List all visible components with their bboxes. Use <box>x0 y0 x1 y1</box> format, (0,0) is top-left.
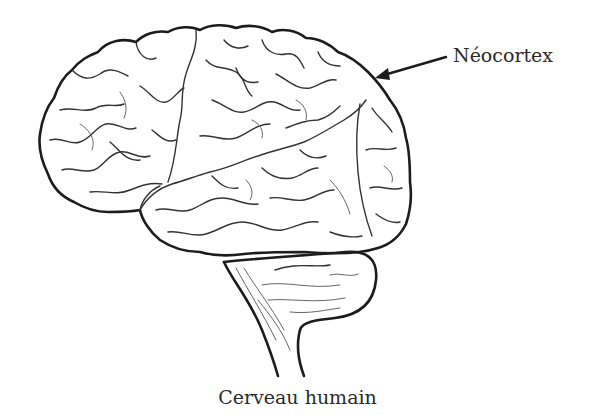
cerebellum <box>224 252 376 330</box>
figure-caption: Cerveau humain <box>0 386 595 408</box>
neocortex-label: Néocortex <box>453 44 553 66</box>
neocortex-arrow <box>375 57 446 80</box>
cerebrum <box>39 25 410 255</box>
brainstem <box>224 262 304 376</box>
